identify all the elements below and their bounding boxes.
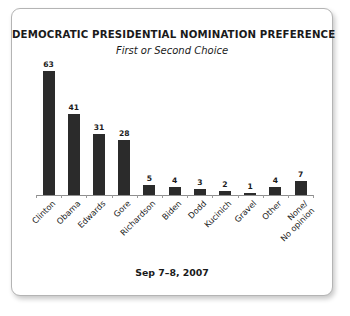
x-axis-tick bbox=[187, 195, 188, 198]
x-axis-tick bbox=[61, 195, 62, 198]
x-axis-label-text: Biden bbox=[160, 199, 183, 222]
x-axis-labels: ClintonObamaEdwardsGoreRichardsonBidenDo… bbox=[36, 199, 314, 261]
bar-value-label: 2 bbox=[222, 180, 227, 189]
bar-value-label: 5 bbox=[147, 174, 152, 183]
bar-value-label: 41 bbox=[68, 103, 79, 112]
bar-group: 63 bbox=[36, 69, 61, 195]
x-axis-label-text: Gravel bbox=[233, 199, 259, 225]
bar bbox=[43, 71, 55, 195]
x-axis-tick bbox=[313, 195, 314, 198]
bar-group: 2 bbox=[212, 69, 237, 195]
bar-value-label: 28 bbox=[119, 129, 130, 138]
bar-group: 31 bbox=[86, 69, 111, 195]
chart-footnote: Sep 7–8, 2007 bbox=[12, 267, 332, 278]
bar-group: 5 bbox=[137, 69, 162, 195]
bar-group: 3 bbox=[187, 69, 212, 195]
x-axis-label-text: Clinton bbox=[30, 199, 57, 226]
bar-group: 41 bbox=[61, 69, 86, 195]
bar-group: 7 bbox=[288, 69, 313, 195]
x-axis-tick bbox=[162, 195, 163, 198]
x-axis-tick bbox=[263, 195, 264, 198]
x-axis-tick bbox=[36, 195, 37, 198]
bar-value-label: 63 bbox=[43, 60, 54, 69]
chart-title: DEMOCRATIC PRESIDENTIAL NOMINATION PREFE… bbox=[12, 29, 332, 40]
chart-subtitle: First or Second Choice bbox=[12, 45, 332, 56]
x-axis-tick bbox=[137, 195, 138, 198]
bar-value-label: 7 bbox=[298, 170, 303, 179]
x-axis-tick bbox=[288, 195, 289, 198]
x-axis-label-text: Other bbox=[261, 199, 284, 222]
bar-value-label: 3 bbox=[197, 178, 202, 187]
chart-card: DEMOCRATIC PRESIDENTIAL NOMINATION PREFE… bbox=[11, 8, 333, 296]
x-axis-tick bbox=[238, 195, 239, 198]
bar-group: 4 bbox=[263, 69, 288, 195]
x-axis-tick bbox=[212, 195, 213, 198]
bar-value-label: 31 bbox=[94, 123, 105, 132]
x-axis-label-text: Gore bbox=[112, 199, 133, 220]
x-axis-tick bbox=[86, 195, 87, 198]
x-axis-tick bbox=[112, 195, 113, 198]
